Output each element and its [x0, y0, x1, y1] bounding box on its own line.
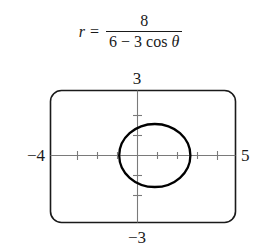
graphing-calculator-window: 3 −3 −4 5 [0, 60, 261, 249]
equation-variable: r [79, 24, 85, 40]
equation-fraction: 8 6 − 3 cos θ [106, 13, 182, 51]
label-ymin: −3 [128, 228, 146, 247]
polar-equation: r = 8 6 − 3 cos θ [0, 4, 261, 60]
equation-equals-sign: = [90, 24, 99, 40]
label-xmin: −4 [27, 146, 46, 165]
theta-symbol: θ [171, 33, 179, 50]
graph-svg: 3 −3 −4 5 [0, 60, 261, 249]
fraction-numerator: 8 [134, 13, 154, 31]
equation-row: r = 8 6 − 3 cos θ [79, 13, 182, 51]
graph-frame [51, 91, 236, 223]
denominator-text: 6 − 3 cos [109, 33, 171, 50]
fraction-denominator: 6 − 3 cos θ [106, 32, 182, 51]
label-xmax: 5 [241, 146, 250, 165]
label-ymax: 3 [133, 69, 142, 88]
